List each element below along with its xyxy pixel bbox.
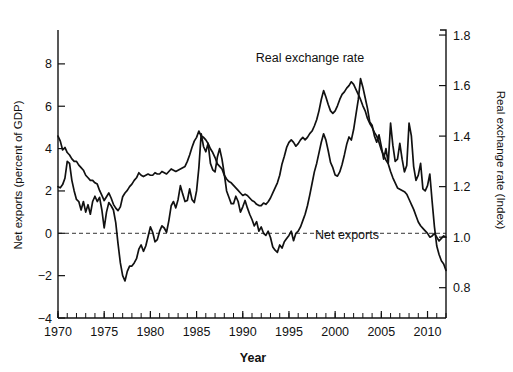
series-annotation-real-exchange-rate: Real exchange rate bbox=[256, 51, 364, 65]
x-axis-tick-labels: 197019751980198519901995200020052010 bbox=[44, 325, 441, 339]
y-right-tick-label: 0.8 bbox=[453, 281, 470, 295]
x-tick-label: 1985 bbox=[183, 325, 211, 339]
y-left-tick-label: 4 bbox=[45, 142, 52, 156]
y-left-tick-label: −4 bbox=[38, 312, 52, 326]
y-left-tick-label: 8 bbox=[45, 57, 52, 71]
chart-canvas: 197019751980198519901995200020052010 864… bbox=[0, 0, 513, 372]
x-tick-label: 1970 bbox=[44, 325, 72, 339]
y-left-tick-label: 6 bbox=[45, 100, 52, 114]
y-right-tick-label: 1.2 bbox=[453, 180, 470, 194]
x-axis-title: Year bbox=[240, 351, 267, 365]
x-tick-label: 2000 bbox=[321, 325, 349, 339]
y-right-tick-label: 1.4 bbox=[453, 130, 470, 144]
left-axis-title: Net exports (percent of GDP) bbox=[12, 100, 24, 249]
y-right-tick-label: 1.0 bbox=[453, 231, 470, 245]
x-tick-label: 1980 bbox=[136, 325, 164, 339]
y-left-tick-label: −2 bbox=[38, 269, 52, 283]
x-tick-label: 1975 bbox=[90, 325, 118, 339]
chart-figure: 197019751980198519901995200020052010 864… bbox=[0, 0, 513, 372]
series-annotation-net-exports: Net exports bbox=[315, 228, 379, 242]
y-left-tick-label: 2 bbox=[45, 184, 52, 198]
y-right-tick-label: 1.8 bbox=[453, 29, 470, 43]
right-axis-title: Real exchange rate (Index) bbox=[495, 91, 507, 230]
x-tick-label: 1995 bbox=[275, 325, 303, 339]
y-right-tick-label: 1.6 bbox=[453, 79, 470, 93]
x-tick-label: 2010 bbox=[414, 325, 442, 339]
x-tick-label: 2005 bbox=[367, 325, 395, 339]
y-left-tick-label: 0 bbox=[45, 227, 52, 241]
x-tick-label: 1990 bbox=[229, 325, 257, 339]
